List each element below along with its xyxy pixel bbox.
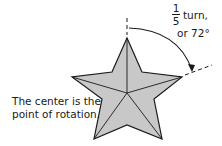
fraction-one-fifth: 1 5 — [172, 3, 180, 26]
reference-dashed-line-rotated — [185, 65, 212, 75]
arrowhead-icon — [188, 64, 195, 72]
fraction-numerator: 1 — [173, 2, 180, 14]
fraction-denominator: 5 — [173, 15, 180, 27]
angle-label: or 72° — [177, 27, 210, 39]
center-note-line2: point of rotation. — [12, 108, 100, 120]
star-diagram — [0, 0, 222, 146]
turn-label: turn, — [183, 9, 208, 21]
center-note-line1: The center is the — [12, 95, 101, 107]
